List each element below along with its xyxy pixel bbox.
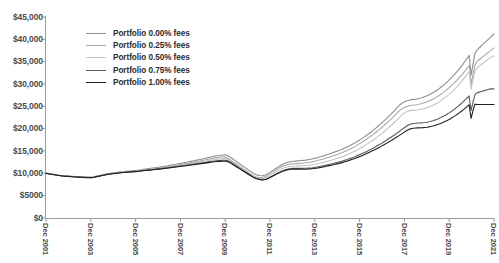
x-tick-label: Dec 2019 <box>445 223 453 255</box>
x-tick-label: Dec 2001 <box>42 223 50 255</box>
legend-item[interactable]: Portfolio 0.75% fees <box>86 65 190 75</box>
legend-line-swatch <box>86 70 106 71</box>
x-tick-label: Dec 2009 <box>221 223 229 255</box>
legend-line-swatch <box>86 33 106 34</box>
x-tick-label: Dec 2003 <box>86 223 94 255</box>
legend-item[interactable]: Portfolio 0.25% fees <box>86 40 190 50</box>
chart-legend: Portfolio 0.00% feesPortfolio 0.25% fees… <box>86 28 190 88</box>
x-tick-label: Dec 2007 <box>176 223 184 255</box>
legend-line-swatch <box>86 57 106 58</box>
x-tick-label: Dec 2013 <box>310 223 318 255</box>
x-tick-label: Dec 2005 <box>131 223 139 255</box>
legend-line-swatch <box>86 45 106 46</box>
x-axis-labels: Dec 2001Dec 2003Dec 2005Dec 2007Dec 2009… <box>0 0 499 263</box>
legend-label: Portfolio 0.25% fees <box>113 41 190 50</box>
legend-item[interactable]: Portfolio 0.00% fees <box>86 28 190 38</box>
legend-item[interactable]: Portfolio 1.00% fees <box>86 78 190 88</box>
legend-item[interactable]: Portfolio 0.50% fees <box>86 53 190 63</box>
line-chart: $0$5000$10,000$15,000$20,000$25,000$30,0… <box>0 0 499 263</box>
legend-label: Portfolio 1.00% fees <box>113 78 190 87</box>
x-tick-label: Dec 2015 <box>355 223 363 255</box>
legend-label: Portfolio 0.75% fees <box>113 66 190 75</box>
x-tick-label: Dec 2017 <box>400 223 408 255</box>
legend-label: Portfolio 0.50% fees <box>113 53 190 62</box>
x-tick-label: Dec 2011 <box>266 223 274 255</box>
x-tick-label: Dec 2021 <box>490 223 498 255</box>
legend-line-swatch <box>86 82 106 83</box>
legend-label: Portfolio 0.00% fees <box>113 29 190 38</box>
